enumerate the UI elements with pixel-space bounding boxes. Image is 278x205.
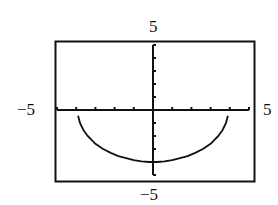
graph-plot: [0, 0, 278, 205]
viewing-window-frame: [56, 42, 255, 182]
axes: [57, 45, 249, 175]
xmin-label: −5: [17, 101, 35, 118]
xmax-label: 5: [263, 101, 272, 118]
ymax-label: 5: [149, 18, 158, 35]
ymin-label: −5: [140, 186, 158, 203]
